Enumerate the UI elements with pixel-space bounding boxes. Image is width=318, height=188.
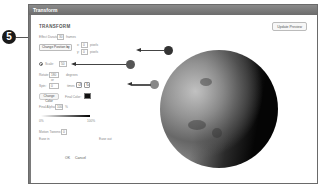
effect-duration-unit: frames [66, 35, 76, 39]
callout-dot [164, 46, 173, 55]
planet-crater [200, 78, 212, 86]
x-unit: pixels [90, 43, 98, 47]
scale-label: Scale: [45, 62, 54, 66]
y-unit: pixels [90, 50, 98, 54]
dialog-heading: TRANSFORM [39, 24, 70, 29]
final-color-swatch[interactable] [84, 93, 91, 99]
spin-field[interactable]: 0 [49, 83, 59, 89]
callout-arrowhead [71, 62, 76, 66]
ease-out-label: Ease out [99, 137, 112, 141]
ease-in-label: Ease in [39, 137, 50, 141]
scale-field[interactable]: 50 [59, 61, 67, 67]
final-color-label: Final Color: [65, 95, 81, 99]
final-alpha-label: Final Alpha: [39, 105, 56, 109]
callout-dot [150, 80, 159, 89]
planet-crater [212, 128, 222, 138]
chevron-down-icon: ▾ [67, 45, 69, 50]
motion-tweens-field[interactable]: 0 [61, 129, 67, 135]
effect-duration-field[interactable]: 30 [57, 34, 64, 40]
spin-unit: times [67, 84, 75, 88]
rotate-cw-icon[interactable]: ↻ [84, 82, 90, 88]
alpha-min-label: 0% [39, 119, 44, 123]
rotate-ccw-icon[interactable]: ↺ [76, 82, 82, 88]
final-alpha-unit: % [65, 105, 68, 109]
change-color-button[interactable]: Change Color [39, 93, 59, 100]
or-label: or [51, 78, 54, 82]
alpha-max-label: 100% [87, 119, 95, 123]
preview-image-planet [160, 50, 278, 168]
callout-dot [126, 60, 135, 69]
callout-line [132, 84, 151, 86]
position-dropdown-value: Change Position by [42, 45, 70, 49]
spin-label: Spin: [39, 84, 46, 88]
callout-arrowhead [136, 48, 141, 52]
rotate-label: Rotate: [39, 73, 49, 77]
dialog-titlebar: Transform [29, 5, 317, 15]
motion-tweens-label: Motion Tweens: [39, 130, 61, 134]
ok-button[interactable]: OK [65, 156, 70, 160]
y-label: y: [77, 50, 79, 54]
final-alpha-field[interactable]: 100 [55, 104, 63, 110]
x-label: x: [77, 43, 79, 47]
cancel-button[interactable]: Cancel [75, 156, 86, 160]
step-badge: 5 [2, 30, 16, 44]
position-dropdown[interactable]: Change Position by ▾ [39, 44, 72, 51]
alpha-slider[interactable] [41, 115, 90, 117]
y-field[interactable]: 0 [81, 49, 88, 55]
update-preview-button[interactable]: Update Preview [272, 22, 307, 31]
callout-line [141, 50, 165, 52]
left-border [29, 15, 31, 183]
callout-line [76, 64, 126, 66]
scale-radio[interactable] [39, 62, 43, 66]
callout-arrowhead [127, 82, 132, 86]
planet-crater [188, 120, 206, 130]
x-field[interactable]: 0 [81, 42, 88, 48]
rotate-unit: degrees [66, 73, 78, 77]
